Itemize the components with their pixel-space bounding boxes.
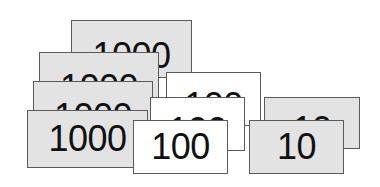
card-value: 1000 — [48, 121, 126, 157]
ten-card: 10 — [249, 120, 344, 174]
card-value: 10 — [277, 129, 316, 165]
place-value-cards-diagram: 1000 1000 1000 1000 100 100 100 10 10 — [0, 0, 380, 187]
hundred-card: 100 — [133, 120, 228, 174]
thousand-card: 1000 — [27, 110, 148, 168]
card-value: 100 — [151, 129, 210, 165]
